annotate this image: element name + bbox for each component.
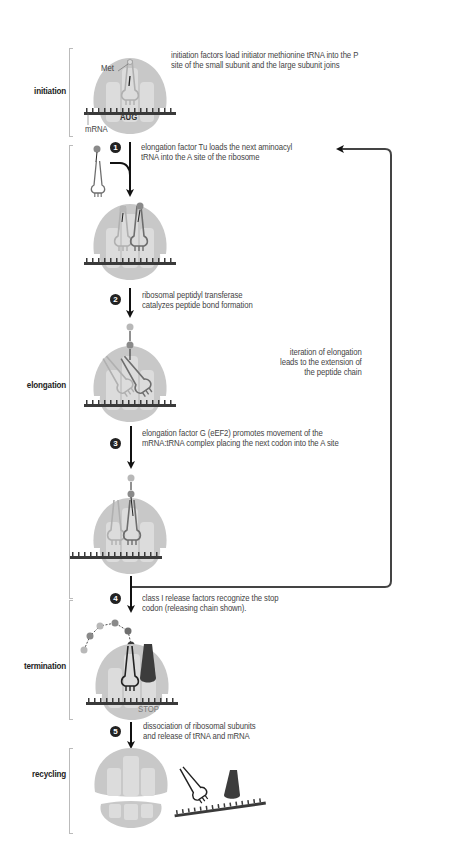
ribosome-large-subunit [94, 748, 167, 797]
stop-label: STOP [138, 704, 159, 714]
ribosome-elongation-2 [93, 342, 166, 423]
released-release-factor [224, 770, 240, 799]
step-badge-1: 1 [110, 142, 121, 153]
aug-label: AUG [120, 112, 137, 122]
step-2-text: ribosomal peptidyl transferasecatalyzes … [142, 290, 253, 310]
loop-note-text: iteration of elongationleads to the exte… [280, 347, 362, 377]
step-1-text: elongation factor Tu loads the next amin… [141, 142, 292, 162]
mrna-label: mRNA [85, 124, 108, 134]
step-3-text: elongation factor G (eEF2) promotes move… [142, 428, 339, 448]
released-trna [175, 764, 211, 806]
step-badge-5: 5 [110, 726, 121, 737]
step-badge-2: 2 [110, 294, 121, 305]
step-4-text: class I release factors recognize the st… [142, 593, 278, 613]
ribosome-elongation-3 [93, 497, 166, 574]
ribosome-small-subunit [100, 801, 161, 828]
step-badge-3: 3 [110, 438, 121, 449]
released-mrna [174, 798, 266, 818]
met-label: Met [101, 63, 114, 73]
ribosome-elongation-1 [93, 203, 166, 281]
step-initiation-text: initiation factors load initiator methio… [171, 50, 358, 70]
step-badge-4: 4 [110, 593, 121, 604]
step-5-text: dissociation of ribosomal subunitsand re… [143, 721, 256, 741]
